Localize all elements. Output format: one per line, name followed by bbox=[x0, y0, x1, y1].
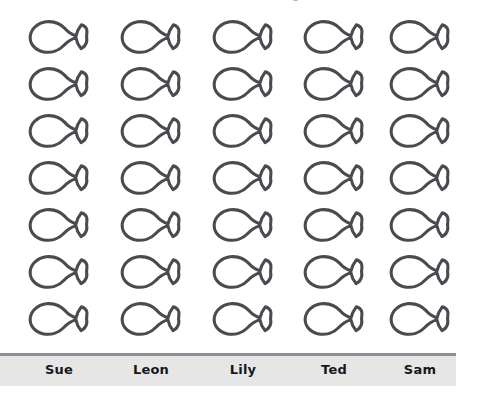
category-label-leon: Leon bbox=[105, 359, 197, 381]
fish-icon-sue bbox=[23, 159, 95, 199]
category-label-sue: Sue bbox=[13, 359, 105, 381]
fish-icon-lily bbox=[207, 18, 279, 58]
fish-icon-leon bbox=[115, 253, 187, 293]
fish-icon-leon bbox=[115, 206, 187, 246]
fish-icon-leon bbox=[115, 159, 187, 199]
pictograph-row bbox=[0, 159, 480, 199]
fish-icon-ted bbox=[298, 65, 370, 105]
fish-icon-sam bbox=[384, 112, 456, 152]
fish-icon-lily bbox=[207, 159, 279, 199]
pictograph-row bbox=[0, 206, 480, 246]
category-label-sam: Sam bbox=[374, 359, 466, 381]
pictograph-row bbox=[0, 18, 480, 58]
fish-icon-lily bbox=[207, 300, 279, 340]
fish-icon-leon bbox=[115, 18, 187, 58]
clipped-title-fragment: Number of fish caught bbox=[0, 0, 480, 6]
fish-icon-sue bbox=[23, 300, 95, 340]
fish-icon-lily bbox=[207, 65, 279, 105]
fish-icon-sam bbox=[384, 65, 456, 105]
fish-icon-ted bbox=[298, 159, 370, 199]
fish-icon-sam bbox=[384, 159, 456, 199]
fish-icon-lily bbox=[207, 253, 279, 293]
fish-icon-ted bbox=[298, 253, 370, 293]
fish-icon-leon bbox=[115, 300, 187, 340]
fish-icon-sue bbox=[23, 112, 95, 152]
fish-icon-sue bbox=[23, 253, 95, 293]
pictograph-chart: Number of fish caught SueLeonLilyTedSam bbox=[0, 0, 480, 401]
fish-icon-sue bbox=[23, 65, 95, 105]
fish-icon-sue bbox=[23, 18, 95, 58]
pictograph-plot-area bbox=[0, 12, 480, 352]
fish-icon-sam bbox=[384, 18, 456, 58]
fish-icon-sam bbox=[384, 206, 456, 246]
fish-icon-ted bbox=[298, 18, 370, 58]
category-label-ted: Ted bbox=[288, 359, 380, 381]
pictograph-row bbox=[0, 65, 480, 105]
fish-icon-sue bbox=[23, 206, 95, 246]
fish-icon-lily bbox=[207, 112, 279, 152]
pictograph-row bbox=[0, 253, 480, 293]
category-label-lily: Lily bbox=[197, 359, 289, 381]
fish-icon-ted bbox=[298, 112, 370, 152]
fish-icon-leon bbox=[115, 65, 187, 105]
fish-icon-ted bbox=[298, 206, 370, 246]
fish-icon-ted bbox=[298, 300, 370, 340]
fish-icon-lily bbox=[207, 206, 279, 246]
fish-icon-sam bbox=[384, 253, 456, 293]
pictograph-row bbox=[0, 112, 480, 152]
pictograph-row bbox=[0, 300, 480, 340]
fish-icon-sam bbox=[384, 300, 456, 340]
fish-icon-leon bbox=[115, 112, 187, 152]
